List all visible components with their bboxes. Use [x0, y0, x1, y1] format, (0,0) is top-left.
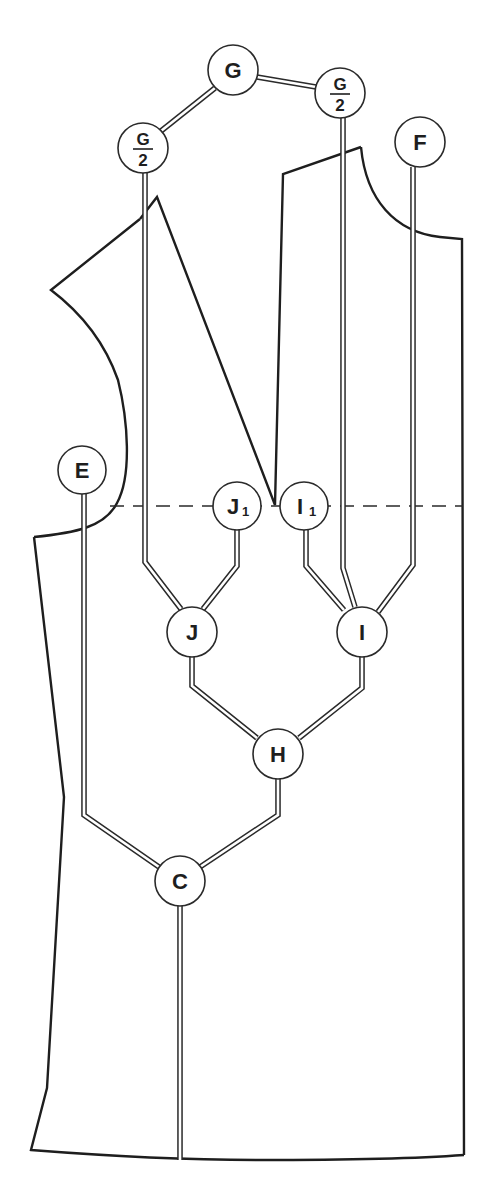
rail-g2l-to-j — [145, 173, 181, 609]
measurement-nodes: GG2G2FEJ1I1JIHC — [58, 45, 445, 906]
rail-j-to-h — [192, 657, 257, 738]
rail-j1-to-j — [203, 530, 237, 609]
pattern-diagram: GG2G2FEJ1I1JIHC — [0, 0, 486, 1184]
node-label-numerator: G — [136, 130, 149, 149]
node-label: I — [297, 494, 303, 519]
node-i: I — [337, 607, 387, 657]
rail-g2r-to-i — [343, 118, 355, 607]
side-seam-hem — [31, 537, 464, 1160]
rail-j-to-h — [192, 657, 257, 738]
node-j: J — [167, 607, 217, 657]
node-label: H — [270, 742, 286, 767]
pattern-outline — [31, 147, 464, 1160]
rail-f-to-i — [378, 167, 413, 612]
node-label-numerator: G — [333, 75, 346, 94]
node-label: F — [413, 130, 426, 155]
node-subscript: 1 — [309, 504, 316, 519]
rail-g2l-to-j — [145, 173, 181, 609]
node-i1: I1 — [280, 482, 328, 530]
rail-f-to-i — [378, 167, 413, 612]
node-label: J — [186, 620, 198, 645]
node-circle — [280, 482, 328, 530]
node-c: C — [155, 856, 205, 906]
node-label: G — [224, 58, 241, 83]
node-g2r: G2 — [315, 68, 365, 118]
node-h: H — [253, 729, 303, 779]
node-e: E — [58, 446, 106, 494]
node-f: F — [395, 117, 445, 167]
node-label: E — [75, 458, 90, 483]
rail-h-to-c — [200, 779, 278, 867]
node-label: J — [227, 494, 239, 519]
node-j1: J1 — [213, 482, 261, 530]
node-g2l: G2 — [118, 123, 168, 173]
shoulder-dart — [140, 147, 361, 505]
rail-g-to-g2r — [257, 77, 316, 87]
node-g: G — [208, 45, 258, 95]
node-label: C — [172, 869, 188, 894]
node-label-denominator: 2 — [138, 151, 147, 170]
rail-i1-to-i — [306, 530, 344, 610]
rail-g-to-g2l — [161, 88, 215, 131]
node-label-denominator: 2 — [335, 96, 344, 115]
rail-i-to-h — [299, 657, 362, 738]
node-subscript: 1 — [242, 504, 249, 519]
node-label: I — [359, 620, 365, 645]
